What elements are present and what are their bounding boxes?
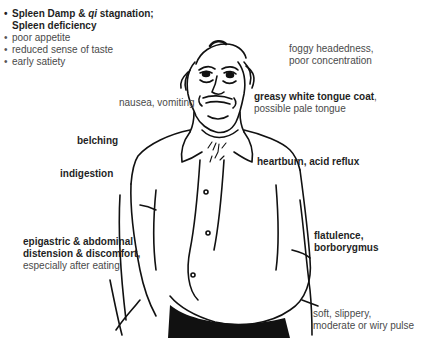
label-bold: epigastric & abdominal bbox=[23, 236, 133, 247]
label-distension: epigastric & abdominal distension & disc… bbox=[23, 236, 140, 272]
label-line: moderate or wiry pulse bbox=[313, 320, 414, 331]
symptom-bullet: reduced sense of taste bbox=[4, 44, 154, 56]
symptom-bullet: early satiety bbox=[4, 56, 154, 68]
label-flatulence: flatulence, borborygmus bbox=[314, 230, 378, 254]
label-line: borborygmus bbox=[314, 242, 378, 253]
label-nausea: nausea, vomiting bbox=[119, 97, 195, 109]
label-pulse: soft, slippery, moderate or wiry pulse bbox=[313, 308, 414, 332]
label-heartburn: heartburn, acid reflux bbox=[257, 156, 359, 168]
heading-part: stagnation; bbox=[97, 8, 154, 19]
label-bold: greasy white tongue coat bbox=[254, 91, 374, 102]
label-line: soft, slippery, bbox=[313, 308, 371, 319]
syndrome-heading: Spleen Damp & qi stagnation;Spleen defic… bbox=[4, 8, 154, 32]
label-foggy-headedness: foggy headedness, poor concentration bbox=[289, 43, 374, 67]
label-line: possible pale tongue bbox=[254, 103, 346, 114]
qi-term: qi bbox=[88, 8, 97, 19]
label-tongue: greasy white tongue coat, possible pale … bbox=[254, 91, 377, 115]
label-line: flatulence, bbox=[314, 230, 363, 241]
label-indigestion: indigestion bbox=[60, 168, 113, 180]
label-bold: distension & discomfort, bbox=[23, 248, 140, 259]
heading-part: Spleen Damp & bbox=[12, 8, 88, 19]
symptom-bullet: poor appetite bbox=[4, 32, 154, 44]
label-line: poor concentration bbox=[289, 55, 372, 66]
label-line: especially after eating bbox=[23, 260, 120, 271]
label-punct: , bbox=[374, 91, 377, 102]
heading-line2: Spleen deficiency bbox=[12, 20, 96, 31]
syndrome-summary: Spleen Damp & qi stagnation;Spleen defic… bbox=[4, 8, 154, 68]
label-belching: belching bbox=[77, 135, 118, 147]
label-line: foggy headedness, bbox=[289, 43, 374, 54]
